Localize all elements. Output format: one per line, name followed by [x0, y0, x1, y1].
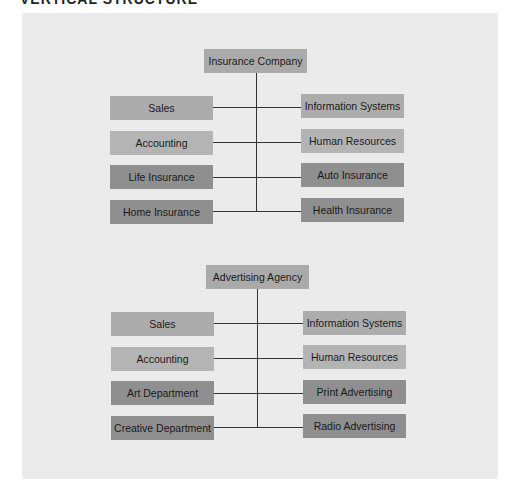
- node-human-resources: Human Resources: [301, 129, 404, 153]
- node-health-insurance: Health Insurance: [301, 198, 404, 222]
- header-text: VERTICAL STRUCTURE: [20, 0, 198, 7]
- root-node-insurance-company: Insurance Company: [204, 49, 307, 73]
- node-radio-advertising: Radio Advertising: [303, 414, 406, 438]
- node-home-insurance: Home Insurance: [110, 200, 213, 224]
- node-sales: Sales: [111, 312, 214, 336]
- branch-connector: [214, 358, 303, 359]
- node-life-insurance: Life Insurance: [110, 165, 213, 189]
- node-human-resources: Human Resources: [303, 345, 406, 369]
- branch-connector: [214, 427, 303, 428]
- node-print-advertising: Print Advertising: [303, 380, 406, 404]
- branch-connector: [213, 211, 301, 212]
- node-creative-department: Creative Department: [111, 416, 214, 440]
- node-accounting: Accounting: [111, 347, 214, 371]
- root-node-advertising-agency: Advertising Agency: [206, 265, 309, 289]
- node-auto-insurance: Auto Insurance: [301, 163, 404, 187]
- page-header-cropped: VERTICAL STRUCTURE: [20, 0, 198, 7]
- branch-connector: [213, 107, 301, 108]
- branch-connector: [214, 323, 303, 324]
- node-information-systems: Information Systems: [301, 94, 404, 118]
- node-information-systems: Information Systems: [303, 311, 406, 335]
- node-accounting: Accounting: [110, 131, 213, 155]
- node-sales: Sales: [110, 96, 213, 120]
- branch-connector: [213, 142, 301, 143]
- branch-connector: [213, 177, 301, 178]
- branch-connector: [214, 393, 303, 394]
- node-art-department: Art Department: [111, 381, 214, 405]
- org-chart-panel: [22, 13, 498, 479]
